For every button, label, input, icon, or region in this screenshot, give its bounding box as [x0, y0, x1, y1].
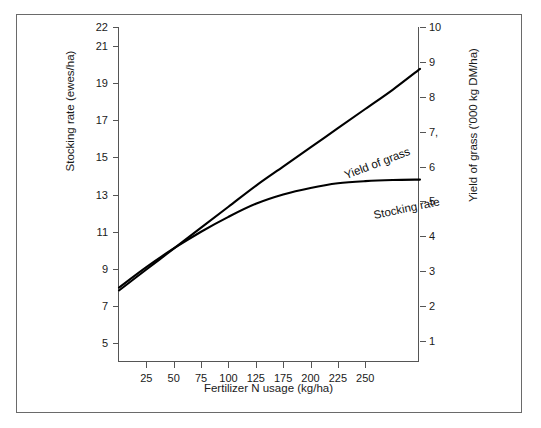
series-curves — [119, 27, 420, 362]
y-axis-right-tick-mark — [420, 236, 426, 237]
x-axis-tick-mark — [174, 362, 175, 368]
chart-figure: Stocking rate (ewes/ha) Yield of grass (… — [0, 0, 541, 428]
x-axis-tick-mark — [228, 362, 229, 368]
x-axis-tick-mark — [311, 362, 312, 368]
y-axis-right-tick-label: 4 — [429, 231, 435, 242]
x-axis-tick-mark — [146, 362, 147, 368]
y-axis-left-tick-label: 15 — [96, 152, 108, 163]
x-axis-tick-mark — [256, 362, 257, 368]
y-axis-right-tick-mark — [420, 167, 426, 168]
x-axis-tick-label: 175 — [274, 372, 292, 384]
y-axis-right-tick-label: 9 — [429, 56, 435, 67]
y-axis-right-tick-label: 8 — [429, 91, 435, 102]
series-line-stocking-rate — [119, 180, 420, 288]
y-axis-right-tick-mark — [420, 306, 426, 307]
y-axis-left-tick-label: 11 — [97, 226, 108, 237]
y-axis-left-tick-label: 13 — [96, 189, 108, 200]
y-axis-left-tick-label: 5 — [102, 338, 108, 349]
y-axis-left-title-text: Stocking rate (ewes/ha) — [64, 51, 76, 172]
y-axis-right-tick-label: 3 — [429, 266, 435, 277]
y-axis-right-tick-mark — [420, 97, 426, 98]
x-axis-tick-mark — [283, 362, 284, 368]
y-axis-right-tick-label: 1 — [429, 336, 435, 347]
x-axis-tick-label: 250 — [356, 372, 374, 384]
x-axis-tick-label: 200 — [301, 372, 319, 384]
y-axis-left-tick-label: 22 — [96, 22, 108, 33]
y-axis-right-tick-label: 10 — [429, 22, 441, 33]
x-axis-tick-mark — [338, 362, 339, 368]
y-axis-left-tick-label: 21 — [96, 40, 108, 51]
y-axis-right-tick-label: 2 — [429, 301, 435, 312]
y-axis-right-tick-label: 6 — [429, 161, 435, 172]
y-axis-left-tick-label: 19 — [96, 77, 108, 88]
x-axis-tick-label: 50 — [168, 372, 180, 384]
y-axis-left-tick-label: 9 — [102, 263, 108, 274]
y-axis-right-tick-label: 7, — [429, 126, 438, 137]
y-axis-right-title-text: Yield of grass ('000 kg DM/ha) — [467, 48, 479, 202]
x-axis-tick-label: 25 — [140, 372, 152, 384]
y-axis-left-tick-label: 7 — [102, 301, 108, 312]
y-axis-right-tick-mark — [420, 132, 426, 133]
x-axis-tick-mark — [365, 362, 366, 368]
x-axis-tick-label: 125 — [247, 372, 265, 384]
plot-area: 22211917151311975 10987,654321 255075100… — [118, 27, 419, 362]
y-axis-right-tick-mark — [420, 341, 426, 342]
x-axis-tick-label: 75 — [195, 372, 207, 384]
x-axis-tick-label: 225 — [329, 372, 347, 384]
y-axis-right-tick-mark — [420, 62, 426, 63]
x-axis-tick-mark — [201, 362, 202, 368]
y-axis-right-title: Yield of grass ('000 kg DM/ha) — [465, 27, 481, 362]
y-axis-left-tick-label: 17 — [96, 115, 108, 126]
x-axis-tick-label: 100 — [219, 372, 237, 384]
y-axis-right-tick-mark — [420, 271, 426, 272]
y-axis-right-tick-mark — [420, 27, 426, 28]
y-axis-left-title: Stocking rate (ewes/ha) — [62, 27, 78, 362]
